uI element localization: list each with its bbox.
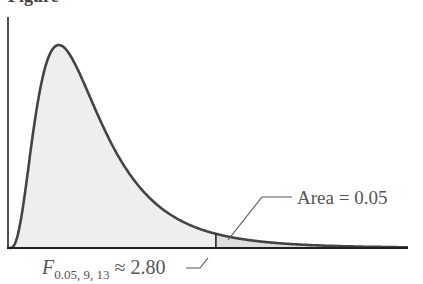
critical-label-var: F [41,256,55,278]
area-leader-line [228,197,292,240]
area-label: Area = 0.05 [297,187,387,208]
critical-leader-line [186,258,208,268]
critical-label-subscript: 0.05, 9, 13 [54,267,109,282]
f-distribution-diagram: Area = 0.05 F0.05, 9, 13 ≈ 2.80 [0,0,423,284]
critical-label-value: ≈ 2.80 [109,256,165,278]
critical-value-label: F0.05, 9, 13 ≈ 2.80 [41,256,165,282]
